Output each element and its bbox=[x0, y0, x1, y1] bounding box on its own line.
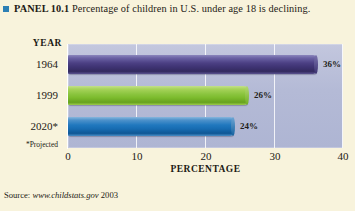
x-tick-10: 10 bbox=[122, 150, 152, 162]
panel-number: PANEL 10.1 bbox=[14, 3, 69, 14]
bar-cap bbox=[231, 117, 235, 136]
bar-1964[interactable] bbox=[68, 55, 316, 74]
projected-note: *Projected bbox=[0, 140, 58, 149]
bar-value-2020: 24% bbox=[240, 117, 258, 136]
plot-area: 36% 26% 24% bbox=[68, 44, 343, 148]
bar-1999[interactable] bbox=[68, 86, 247, 105]
bar-cap bbox=[314, 55, 318, 74]
panel-figure: PANEL 10.1 Percentage of children in U.S… bbox=[0, 0, 355, 211]
source-prefix: Source: bbox=[4, 190, 30, 200]
bar-2020[interactable] bbox=[68, 117, 233, 136]
x-tick-30: 30 bbox=[260, 150, 290, 162]
square-bullet-icon bbox=[3, 6, 9, 12]
source-year: 2003 bbox=[101, 190, 118, 200]
year-label-1999: 1999 bbox=[0, 86, 58, 105]
year-label-2020: 2020* bbox=[0, 117, 58, 136]
source-line: Source: www.childstats.gov 2003 bbox=[4, 190, 118, 200]
figure-caption: PANEL 10.1 Percentage of children in U.S… bbox=[3, 2, 351, 16]
x-axis-title: PERCENTAGE bbox=[68, 164, 343, 174]
source-url: www.childstats.gov bbox=[32, 190, 98, 200]
x-tick-0: 0 bbox=[53, 150, 83, 162]
gridline-40 bbox=[342, 44, 343, 148]
x-tick-40: 40 bbox=[328, 150, 355, 162]
x-tick-20: 20 bbox=[191, 150, 221, 162]
bar-value-1964: 36% bbox=[323, 55, 341, 74]
year-label-1964: 1964 bbox=[0, 55, 58, 74]
bar-cap bbox=[245, 86, 249, 105]
caption-text: Percentage of children in U.S. under age… bbox=[72, 3, 311, 14]
year-axis-title: YEAR bbox=[2, 38, 62, 48]
bar-value-1999: 26% bbox=[254, 86, 272, 105]
